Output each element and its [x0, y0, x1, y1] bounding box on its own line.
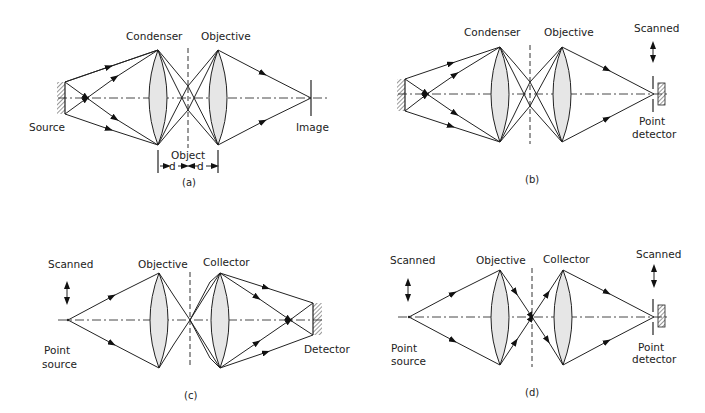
collector-label: Collector [543, 253, 590, 265]
collector-lens-icon [554, 270, 572, 365]
scanned-right-label: Scanned [636, 248, 681, 260]
caption-d: (d) [525, 387, 539, 398]
scanned-left-label: Scanned [390, 254, 435, 266]
panel-b: Condenser Objective Scanned Point detect… [397, 22, 679, 185]
detector-hatch-icon [313, 303, 322, 335]
point-label: Point [391, 342, 417, 354]
panel-c: Scanned Objective Collector Point source… [42, 256, 350, 401]
point-detector-icon [658, 83, 665, 105]
source-label: source [42, 358, 77, 370]
scanned-label: Scanned [634, 22, 679, 34]
condenser-label: Condenser [126, 30, 183, 42]
optical-diagrams: Condenser Objective Source Image Object … [0, 0, 705, 413]
caption-c: (c) [184, 390, 197, 401]
condenser-lens-icon [149, 50, 167, 145]
point-detector-icon [658, 305, 665, 327]
caption-b: (b) [525, 174, 539, 185]
source-hatch-icon [57, 82, 65, 114]
objective-lens-icon [553, 47, 571, 142]
detector-label: detector [632, 128, 677, 140]
d-left-label: d [169, 160, 176, 172]
objective-lens-icon [209, 50, 227, 145]
objective-lens-icon [150, 273, 168, 368]
d-right-label: d [197, 160, 204, 172]
caption-a: (a) [182, 177, 196, 188]
objective-label: Objective [476, 254, 526, 266]
scanned-label: Scanned [48, 258, 93, 270]
point-label: Point [44, 344, 70, 356]
objective-lens-icon [491, 270, 509, 365]
collector-label: Collector [203, 256, 250, 268]
objective-label: Objective [138, 258, 188, 270]
source-label: Source [29, 121, 65, 133]
collector-lens-icon [211, 273, 229, 368]
objective-label: Objective [544, 26, 594, 38]
point-label: Point [639, 115, 665, 127]
image-label: Image [296, 121, 329, 133]
detector-label: Detector [304, 343, 350, 355]
panel-a: Condenser Objective Source Image Object … [29, 30, 330, 188]
panel-d: Scanned Objective Collector Scanned Poin… [390, 248, 681, 398]
point-detector-label-2: detector [632, 353, 677, 365]
objective-label: Objective [201, 30, 251, 42]
condenser-lens-icon [491, 47, 509, 142]
condenser-label: Condenser [464, 26, 521, 38]
point-detector-label-1: Point [638, 341, 664, 353]
source-hatch-icon [397, 79, 405, 111]
source-label: source [391, 355, 426, 367]
